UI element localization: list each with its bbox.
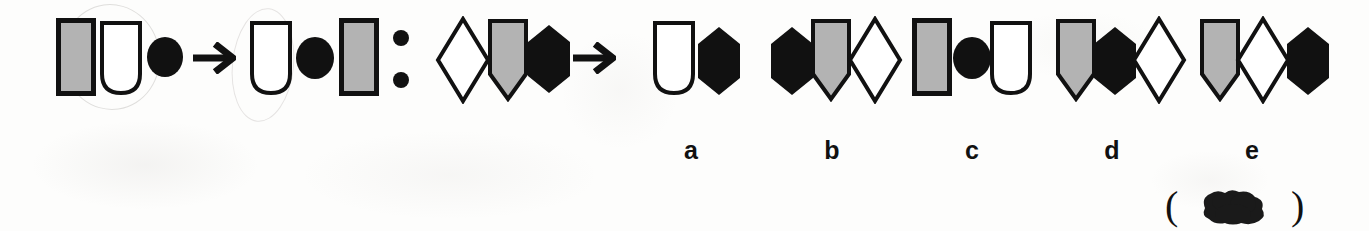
option-e-hexagon[interactable] bbox=[1285, 26, 1331, 96]
option-a-hexagon[interactable] bbox=[696, 26, 742, 96]
arrow-right-icon bbox=[572, 42, 616, 74]
colon-dot bbox=[393, 72, 409, 88]
option-label-b[interactable]: b bbox=[812, 136, 852, 165]
option-c-circle[interactable] bbox=[952, 36, 992, 80]
stem-pair2-arrow bbox=[572, 42, 616, 74]
u-shape-glyph bbox=[99, 20, 143, 96]
option-d-shield[interactable] bbox=[1055, 18, 1097, 102]
diamond-glyph bbox=[847, 16, 903, 104]
option-label-a[interactable]: a bbox=[671, 136, 711, 165]
u-shape-glyph bbox=[249, 20, 293, 96]
scan-smudge bbox=[30, 120, 260, 210]
stem-pair2-left-hexagon bbox=[526, 24, 572, 94]
stem-pair1-left-ushape bbox=[99, 20, 143, 96]
option-e-diamond[interactable] bbox=[1235, 16, 1291, 104]
circle-glyph bbox=[146, 36, 184, 78]
diamond-glyph bbox=[1131, 16, 1187, 104]
option-b-hexagon[interactable] bbox=[769, 26, 815, 96]
option-d-diamond[interactable] bbox=[1131, 16, 1187, 104]
diamond-glyph bbox=[435, 16, 491, 104]
ink-blot-icon bbox=[1195, 188, 1271, 226]
hexagon-glyph bbox=[526, 24, 572, 94]
diamond-glyph bbox=[1235, 16, 1291, 104]
circle-glyph bbox=[952, 36, 992, 80]
rectangle-glyph bbox=[339, 18, 379, 96]
option-a-ushape[interactable] bbox=[652, 20, 696, 96]
scan-smudge bbox=[300, 130, 600, 220]
option-label-d[interactable]: d bbox=[1092, 136, 1132, 165]
shield-glyph bbox=[1055, 18, 1097, 102]
u-shape-glyph bbox=[652, 20, 696, 96]
stem-pair2-left-diamond bbox=[435, 16, 491, 104]
hexagon-glyph bbox=[1285, 26, 1331, 96]
answer-mark[interactable]: ( ) bbox=[1165, 186, 1310, 230]
arrow-right-icon bbox=[192, 42, 236, 74]
colon-dot bbox=[393, 30, 409, 46]
stem-pair1-right-ushape bbox=[249, 20, 293, 96]
relation-separator-colon bbox=[391, 28, 413, 92]
stem-pair1-right-circle bbox=[295, 36, 335, 80]
u-shape-glyph bbox=[989, 20, 1033, 96]
paren-open: ( bbox=[1165, 182, 1178, 229]
rectangle-glyph bbox=[56, 18, 96, 96]
hexagon-glyph bbox=[696, 26, 742, 96]
option-b-diamond[interactable] bbox=[847, 16, 903, 104]
stem-pair1-right-rectangle bbox=[339, 18, 379, 96]
option-label-c[interactable]: c bbox=[952, 136, 992, 165]
paren-close: ) bbox=[1291, 182, 1304, 229]
option-b-shield[interactable] bbox=[810, 18, 852, 102]
option-c-rectangle[interactable] bbox=[912, 18, 952, 96]
option-label-e[interactable]: e bbox=[1232, 136, 1272, 165]
rectangle-glyph bbox=[912, 18, 952, 96]
stem-pair1-left-rectangle bbox=[56, 18, 96, 96]
option-c-ushape[interactable] bbox=[989, 20, 1033, 96]
stem-pair1-left-circle bbox=[146, 36, 184, 78]
circle-glyph bbox=[295, 36, 335, 80]
stem-pair1-arrow bbox=[192, 42, 236, 74]
shield-glyph bbox=[487, 18, 529, 102]
stem-pair2-left-shield bbox=[487, 18, 529, 102]
shield-glyph bbox=[810, 18, 852, 102]
hexagon-glyph bbox=[769, 26, 815, 96]
